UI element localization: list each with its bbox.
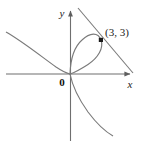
plot-canvas: y x 0 (3, 3) (0, 0, 141, 146)
tangency-point-label: (3, 3) (105, 26, 129, 39)
tangency-point-marker (99, 38, 103, 42)
x-axis-label: x (127, 78, 133, 90)
folium-of-descartes-figure: y x 0 (3, 3) (0, 0, 141, 146)
curve-folium-lower-right-branch (70, 74, 113, 136)
curve-folium-loop (70, 34, 102, 74)
curve-folium-upper-left-branch (6, 32, 70, 74)
origin-label: 0 (59, 76, 65, 88)
y-axis-label: y (59, 7, 65, 19)
tangent-line (78, 8, 133, 73)
